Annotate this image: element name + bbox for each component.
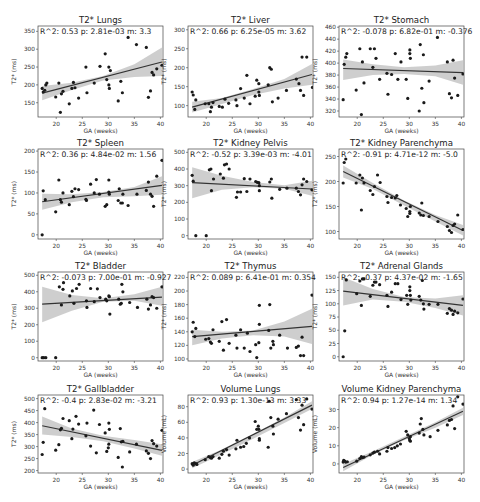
data-point — [41, 233, 44, 236]
data-point — [408, 48, 411, 51]
data-point — [145, 189, 148, 192]
data-point — [406, 97, 409, 100]
stats-annotation: R^2: -0.37 p: 4.37e-02 m: -1.65 — [341, 273, 463, 282]
x-tick-label: 40 — [307, 121, 315, 127]
y-tick-label: 20 — [329, 425, 337, 431]
x-tick-label: 20 — [203, 243, 211, 249]
y-tick-label: 250 — [174, 46, 185, 52]
data-point — [395, 194, 398, 197]
x-tick-label: 40 — [458, 477, 466, 483]
data-point — [300, 55, 303, 58]
y-tick-label: 250 — [325, 154, 336, 160]
data-point — [145, 449, 148, 452]
data-point — [120, 283, 123, 286]
data-point — [270, 177, 273, 180]
data-point — [225, 318, 228, 321]
data-point — [149, 89, 152, 92]
data-point — [235, 346, 238, 349]
data-point — [77, 96, 80, 99]
data-point — [108, 312, 111, 315]
y-tick-label: 500 — [24, 272, 35, 278]
x-tick-label: 20 — [203, 477, 211, 483]
data-point — [453, 222, 456, 225]
data-point — [386, 201, 389, 204]
data-point — [108, 295, 111, 298]
data-point — [371, 284, 374, 287]
data-point — [225, 448, 228, 451]
data-point — [42, 441, 45, 444]
y-tick-label: 150 — [24, 169, 35, 175]
data-point — [409, 440, 412, 443]
x-tick-label: 35 — [281, 477, 289, 483]
y-tick-label: 200 — [24, 468, 35, 474]
data-point — [345, 52, 348, 55]
x-tick-label: 40 — [307, 365, 315, 371]
stats-annotation: R^2: 0.93 p: 1.30e-13 m: 3.33 — [190, 396, 306, 405]
data-point — [428, 79, 431, 82]
data-point — [54, 449, 57, 452]
data-point — [58, 285, 61, 288]
data-point — [405, 207, 408, 210]
data-point — [128, 301, 131, 304]
data-point — [436, 303, 439, 306]
data-point — [453, 76, 456, 79]
data-point — [269, 346, 272, 349]
data-point — [57, 178, 60, 181]
data-point — [236, 190, 239, 193]
data-point — [60, 427, 63, 430]
data-point — [257, 428, 260, 431]
data-point — [355, 88, 358, 91]
x-tick-label: 40 — [307, 243, 315, 249]
data-point — [420, 87, 423, 90]
data-point — [234, 334, 237, 337]
data-point — [285, 89, 288, 92]
data-point — [302, 423, 305, 426]
data-point — [267, 83, 270, 86]
data-point — [422, 433, 425, 436]
x-tick-label: 20 — [354, 365, 362, 371]
data-point — [71, 427, 74, 430]
x-axis-label: GA (weeks) — [233, 249, 267, 256]
data-point — [369, 189, 372, 192]
data-point — [297, 190, 300, 193]
x-tick-label: 20 — [53, 477, 61, 483]
y-tick-label: 500 — [174, 149, 185, 155]
data-point — [248, 350, 251, 353]
data-point — [207, 102, 210, 105]
data-point — [194, 98, 197, 101]
y-tick-label: 25 — [329, 341, 337, 347]
y-tick-label: 350 — [24, 28, 35, 34]
data-point — [305, 180, 308, 183]
data-point — [147, 96, 150, 99]
data-point — [136, 306, 139, 309]
data-point — [248, 102, 251, 105]
stats-annotation: R^2: 0.94 p: 1.27e-14 m: 1.34 — [341, 396, 457, 405]
x-tick-label: 40 — [307, 477, 315, 483]
y-tick-label: 0 — [332, 461, 336, 467]
data-point — [393, 446, 396, 449]
data-point — [243, 177, 246, 180]
regression-line — [192, 75, 312, 108]
data-point — [408, 289, 411, 292]
x-tick-label: 40 — [157, 365, 165, 371]
data-point — [219, 172, 222, 175]
data-point — [41, 87, 44, 90]
data-point — [89, 287, 92, 290]
data-point — [343, 63, 346, 66]
data-point — [107, 421, 110, 424]
data-point — [436, 429, 439, 432]
data-point — [378, 78, 381, 81]
data-point — [121, 193, 124, 196]
data-point — [342, 98, 345, 101]
regression-line — [42, 62, 162, 93]
data-point — [245, 190, 248, 193]
data-point — [195, 463, 198, 466]
data-point — [109, 69, 112, 72]
data-point — [360, 304, 363, 307]
data-point — [104, 431, 107, 434]
data-point — [121, 91, 124, 94]
data-point — [60, 201, 63, 204]
y-tick-label: 100 — [24, 190, 35, 196]
data-point — [150, 439, 153, 442]
data-point — [152, 296, 155, 299]
